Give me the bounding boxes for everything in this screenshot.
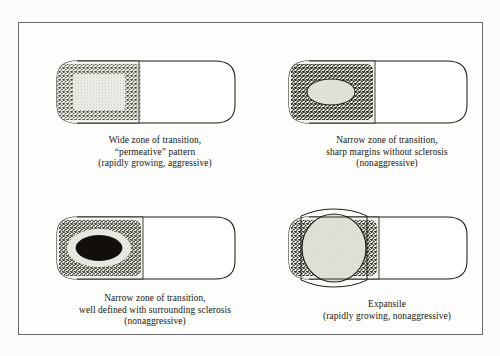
figure-page: Wide zone of transition, “permeative” pa… <box>0 0 500 356</box>
caption-line: sharp margins without sclerosis <box>271 147 500 159</box>
bone-diagram-permeative <box>39 47 271 137</box>
caption-line: Expansile <box>271 299 500 311</box>
panel-narrow-zone-with-sclerosis: Narrow zone of transition, well defined … <box>39 203 271 356</box>
caption-narrow-zone-no-sclerosis: Narrow zone of transition, sharp margins… <box>271 135 500 170</box>
caption-line: Narrow zone of transition, <box>271 135 500 147</box>
caption-expansile: Expansile (rapidly growing, nonaggressiv… <box>271 299 500 322</box>
bone-diagram-expansile <box>271 203 500 293</box>
caption-line: “permeative” pattern <box>39 147 271 159</box>
caption-line: well defined with surrounding sclerosis <box>29 305 281 317</box>
bone-diagram-with-sclerosis <box>39 203 271 293</box>
panel-wide-zone-permeative: Wide zone of transition, “permeative” pa… <box>39 47 271 203</box>
panel-narrow-zone-no-sclerosis: Narrow zone of transition, sharp margins… <box>271 47 500 203</box>
caption-line: (rapidly growing, nonaggressive) <box>271 311 500 323</box>
caption-line: (nonaggressive) <box>29 316 281 328</box>
panel-expansile: Expansile (rapidly growing, nonaggressiv… <box>271 203 500 356</box>
caption-wide-zone-permeative: Wide zone of transition, “permeative” pa… <box>39 135 271 170</box>
bone-diagram-no-sclerosis <box>271 47 500 137</box>
caption-line: (rapidly growing, aggressive) <box>39 158 271 170</box>
caption-line: Wide zone of transition, <box>39 135 271 147</box>
figure-frame: Wide zone of transition, “permeative” pa… <box>18 22 483 335</box>
caption-narrow-zone-with-sclerosis: Narrow zone of transition, well defined … <box>29 293 281 328</box>
caption-line: Narrow zone of transition, <box>29 293 281 305</box>
caption-line: (nonaggressive) <box>271 158 500 170</box>
